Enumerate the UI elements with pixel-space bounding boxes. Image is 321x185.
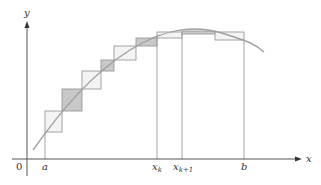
xk1-subscript: k+1 <box>179 166 194 174</box>
y-axis-label: y <box>23 7 30 18</box>
xk1-label: xk+1 <box>173 161 193 174</box>
rectangles-group <box>45 31 244 132</box>
b-label: b <box>241 161 247 172</box>
a-label: a <box>42 161 48 172</box>
y-axis-arrow-icon <box>25 21 30 28</box>
shaded-rectangle <box>182 31 215 34</box>
x-axis-label: x <box>306 153 312 164</box>
origin-label: 0 <box>16 161 22 172</box>
x-axis-arrow-icon <box>295 157 302 162</box>
riemann-sum-diagram: y x 0 a xk xk+1 b <box>0 0 321 185</box>
xk-label: xk <box>152 161 162 174</box>
xk-subscript: k <box>158 166 162 174</box>
